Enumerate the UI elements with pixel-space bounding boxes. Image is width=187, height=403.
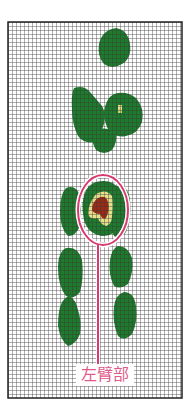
grid-lines xyxy=(8,22,182,398)
thermal-grid-figure xyxy=(0,0,187,403)
callout-label-box: 左臂部 xyxy=(76,364,134,386)
callout-label: 左臂部 xyxy=(81,367,129,383)
